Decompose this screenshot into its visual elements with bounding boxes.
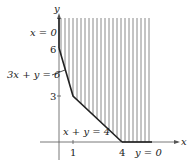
feasible-region-diagram: y x x = 0 6 3x + y = 6 3 x + y = 4 1 4 y… bbox=[0, 0, 189, 165]
label-3x-plus-y-6: 3x + y = 6 bbox=[7, 69, 61, 80]
label-y-zero: y = 0 bbox=[134, 147, 162, 158]
x-axis-label: x bbox=[181, 136, 187, 147]
x-tick-label-1: 1 bbox=[70, 147, 76, 158]
label-x-plus-y-4: x + y = 4 bbox=[63, 126, 110, 137]
feasible-region-hatch bbox=[59, 18, 152, 142]
x-axis-arrow-icon bbox=[174, 140, 180, 144]
x-tick-label-4: 4 bbox=[119, 147, 125, 158]
y-axis-label: y bbox=[53, 3, 60, 14]
y-tick-label-6: 6 bbox=[50, 44, 56, 55]
label-x-zero: x = 0 bbox=[30, 27, 57, 38]
y-tick-label-3: 3 bbox=[50, 91, 56, 102]
